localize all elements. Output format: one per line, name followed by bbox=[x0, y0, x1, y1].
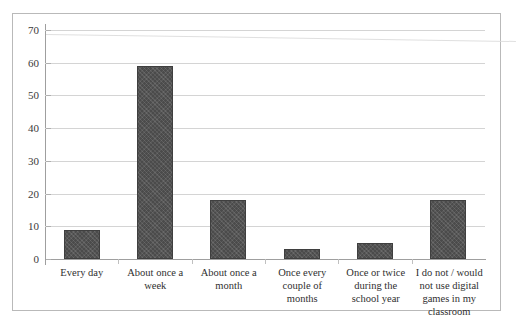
chart-figure: 010203040506070 Every dayAbout once a we… bbox=[12, 13, 501, 311]
bar[interactable] bbox=[137, 66, 173, 259]
y-axis-tick-mark bbox=[46, 63, 51, 64]
bar-slot bbox=[412, 30, 485, 259]
x-axis-category-tick bbox=[265, 259, 266, 264]
x-axis-category-label: Once or twice during the school year bbox=[339, 266, 413, 316]
y-axis-tick-mark bbox=[46, 95, 51, 96]
y-axis-tick-label: 0 bbox=[34, 254, 40, 265]
bar[interactable] bbox=[357, 243, 393, 259]
y-axis-tick-mark bbox=[46, 226, 51, 227]
y-axis-tick-mark bbox=[46, 128, 51, 129]
x-axis-category-label: Once every couple of months bbox=[266, 266, 340, 316]
plot-area bbox=[45, 30, 485, 259]
x-axis-category-tick bbox=[338, 259, 339, 264]
y-axis-tick-label: 70 bbox=[28, 25, 39, 36]
x-axis-category-label: About once a month bbox=[192, 266, 266, 316]
y-axis-tick-label: 60 bbox=[28, 57, 39, 68]
y-axis-tick-label: 40 bbox=[28, 123, 39, 134]
bar[interactable] bbox=[210, 200, 246, 259]
y-axis-tick-labels: 010203040506070 bbox=[13, 30, 39, 259]
x-axis-category-label: Every day bbox=[45, 266, 119, 316]
bar-slot bbox=[265, 30, 338, 259]
bar[interactable] bbox=[430, 200, 466, 259]
y-axis-tick-label: 50 bbox=[28, 90, 39, 101]
bar-slot bbox=[118, 30, 191, 259]
bar-slot bbox=[192, 30, 265, 259]
x-axis-category-tick bbox=[192, 259, 193, 264]
x-axis-category-labels: Every dayAbout once a weekAbout once a m… bbox=[45, 266, 486, 316]
y-axis-tick-mark bbox=[46, 194, 51, 195]
y-axis-tick-label: 20 bbox=[28, 188, 39, 199]
bar-slot bbox=[45, 30, 118, 259]
bar-slot bbox=[338, 30, 411, 259]
x-axis-category-label: About once a week bbox=[119, 266, 193, 316]
y-axis-tick-label: 10 bbox=[28, 221, 39, 232]
bar[interactable] bbox=[284, 249, 320, 259]
y-axis-tick-mark bbox=[46, 259, 51, 260]
y-axis-tick-mark bbox=[46, 161, 51, 162]
x-axis-category-tick bbox=[118, 259, 119, 264]
y-axis-tick-label: 30 bbox=[28, 155, 39, 166]
y-axis-tick-mark bbox=[46, 30, 51, 31]
x-axis-category-label: I do not / would not use digital games i… bbox=[413, 266, 487, 316]
bar[interactable] bbox=[64, 230, 100, 259]
x-axis-category-tick bbox=[412, 259, 413, 264]
